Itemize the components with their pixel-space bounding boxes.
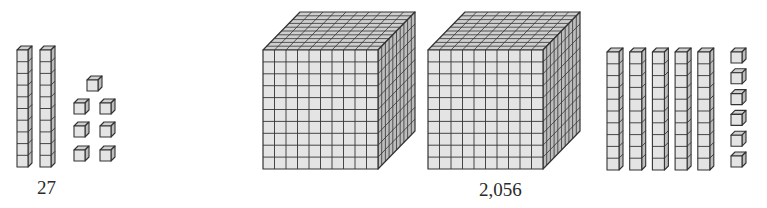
thousands-cube — [428, 12, 580, 169]
unit-cube — [731, 90, 746, 105]
thousands-cube — [263, 12, 415, 169]
number-label-2056: 2,056 — [479, 180, 522, 199]
unit-cube — [74, 146, 89, 161]
tens-rod — [17, 46, 32, 167]
unit-cube — [731, 110, 746, 125]
unit-cube — [731, 131, 746, 146]
unit-cube — [87, 76, 102, 91]
tens-rod — [698, 48, 714, 170]
unit-cube — [74, 122, 89, 137]
unit-cube — [731, 48, 746, 63]
tens-rods-group-2056 — [607, 48, 714, 170]
tens-rod — [675, 48, 691, 170]
ones-units-group-27 — [74, 76, 115, 161]
unit-cube — [74, 99, 89, 114]
tens-rod — [40, 46, 55, 167]
thousands-cubes-group-2056 — [263, 12, 580, 169]
tens-rod — [652, 48, 668, 170]
tens-rod — [607, 48, 623, 170]
unit-cube — [100, 99, 115, 114]
unit-cube — [100, 146, 115, 161]
unit-cube — [731, 152, 746, 167]
base-ten-blocks-diagram — [0, 0, 767, 208]
number-label-27: 27 — [37, 178, 56, 197]
unit-cube — [100, 122, 115, 137]
ones-units-group-2056 — [731, 48, 746, 167]
tens-rods-group-27 — [17, 46, 55, 167]
tens-rod — [630, 48, 646, 170]
unit-cube — [731, 69, 746, 84]
